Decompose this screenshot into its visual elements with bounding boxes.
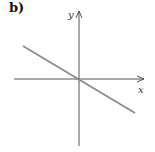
x-axis-label: x (138, 84, 144, 95)
y-axis-label: y (67, 9, 74, 20)
coordinate-plot: y x (0, 0, 155, 152)
